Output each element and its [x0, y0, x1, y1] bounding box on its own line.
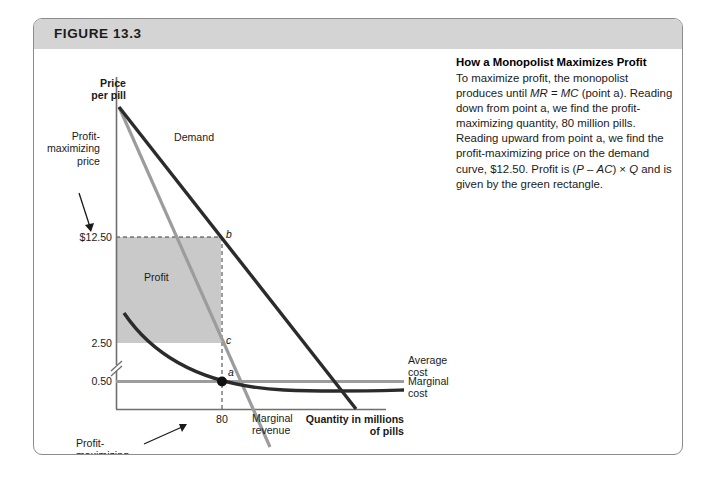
y-axis-title-line2: per pill — [91, 89, 126, 101]
figure-card: FIGURE 13.3 — [33, 18, 683, 455]
y-tick-label-2-50: 2.50 — [54, 337, 112, 349]
figure-caption: How a Monopolist Maximizes Profit To max… — [456, 55, 678, 192]
figure-header-bar: FIGURE 13.3 — [34, 19, 682, 49]
pm-quantity-line2: maximizing — [76, 449, 129, 455]
pm-price-line1: Profit- — [72, 130, 100, 142]
marginal-cost-label: Marginal cost — [408, 375, 464, 400]
pm-price-line2: maximizing — [47, 142, 100, 154]
demand-curve-label: Demand — [174, 131, 214, 143]
point-a-marker — [217, 377, 227, 387]
chart-svg — [34, 49, 464, 455]
point-label-a: a — [228, 367, 234, 378]
pm-price-line3: price — [77, 155, 100, 167]
point-label-b: b — [226, 229, 232, 240]
profit-maximizing-quantity-annotation: Profit-maximizingquantity — [76, 437, 156, 455]
y-tick-label-12-50: $12.50 — [54, 231, 112, 243]
profit-rectangle-label: Profit — [144, 271, 169, 283]
profit-maximizing-price-arrow — [79, 193, 94, 232]
y-axis-title-line1: Price — [100, 77, 126, 89]
x-tick-label-80: 80 — [206, 413, 238, 425]
caption-body: To maximize profit, the monopolist produ… — [456, 71, 678, 192]
caption-title: How a Monopolist Maximizes Profit — [456, 55, 678, 70]
x-axis-title: Quantity in millionsof pills — [286, 413, 404, 438]
pm-quantity-line1: Profit- — [76, 437, 104, 449]
x-axis-title-line1: Quantity in millions — [306, 413, 404, 425]
x-axis-title-line2: of pills — [370, 425, 404, 437]
marginal-revenue-label-line2: revenue — [252, 424, 290, 436]
profit-rectangle — [116, 237, 221, 343]
point-label-c: c — [226, 335, 231, 346]
figure-number-label: FIGURE 13.3 — [54, 26, 142, 41]
profit-maximizing-price-annotation: Profit-maximizingprice — [33, 130, 100, 167]
y-tick-label-0-50: 0.50 — [54, 375, 112, 387]
y-axis-title: Priceper pill — [70, 77, 126, 102]
chart-plot-area: Priceper pill Profit-maximizingprice $12… — [34, 49, 464, 455]
